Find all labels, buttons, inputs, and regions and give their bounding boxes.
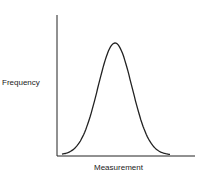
distribution-curve: [62, 43, 170, 154]
y-axis-label: Frequency: [2, 78, 40, 87]
x-axis-label: Measurement: [94, 163, 143, 172]
chart-plot: [0, 0, 202, 181]
